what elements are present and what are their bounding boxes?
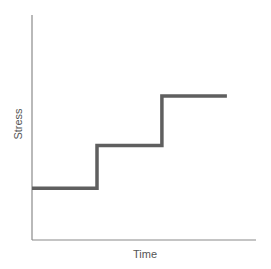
stress-step-line	[32, 96, 227, 188]
x-axis-label: Time	[133, 248, 157, 260]
y-axis-label: Stress	[12, 108, 24, 140]
step-chart: Stress Time	[0, 0, 271, 269]
